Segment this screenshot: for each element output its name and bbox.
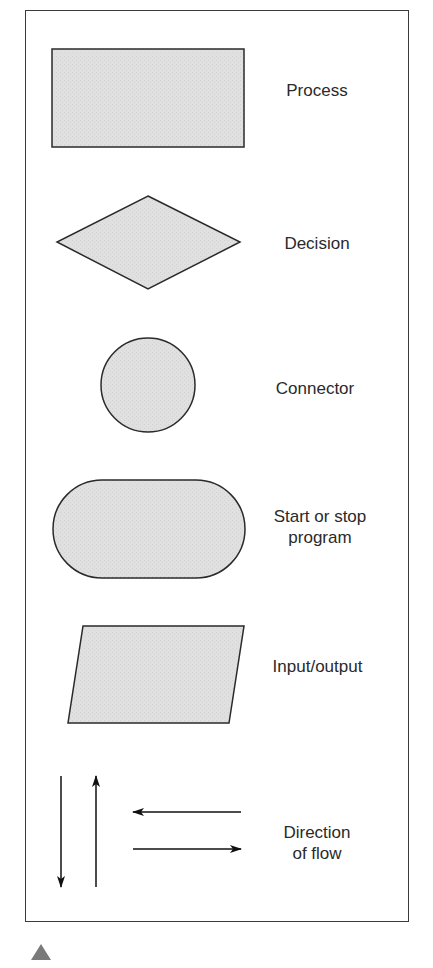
- process-label: Process: [262, 80, 372, 101]
- start-stop-label: Start or stop program: [255, 506, 385, 548]
- input-output-label: Input/output: [255, 656, 380, 677]
- label-line: Decision: [262, 233, 372, 254]
- label-line: of flow: [262, 843, 372, 864]
- label-line: Process: [262, 80, 372, 101]
- connector-label: Connector: [260, 378, 370, 399]
- label-line: Start or stop: [255, 506, 385, 527]
- decision-label: Decision: [262, 233, 372, 254]
- decision-diamond-icon: [57, 196, 240, 289]
- terminator-stadium-icon: [53, 480, 245, 578]
- triangle-marker-icon: [31, 944, 51, 960]
- label-line: Input/output: [255, 656, 380, 677]
- direction-label: Direction of flow: [262, 822, 372, 864]
- label-line: Connector: [260, 378, 370, 399]
- process-rectangle-icon: [52, 49, 244, 147]
- connector-circle-icon: [101, 338, 195, 432]
- flow-arrows-icon: [61, 776, 241, 887]
- label-line: program: [255, 527, 385, 548]
- label-line: Direction: [262, 822, 372, 843]
- input-output-parallelogram-icon: [68, 626, 244, 723]
